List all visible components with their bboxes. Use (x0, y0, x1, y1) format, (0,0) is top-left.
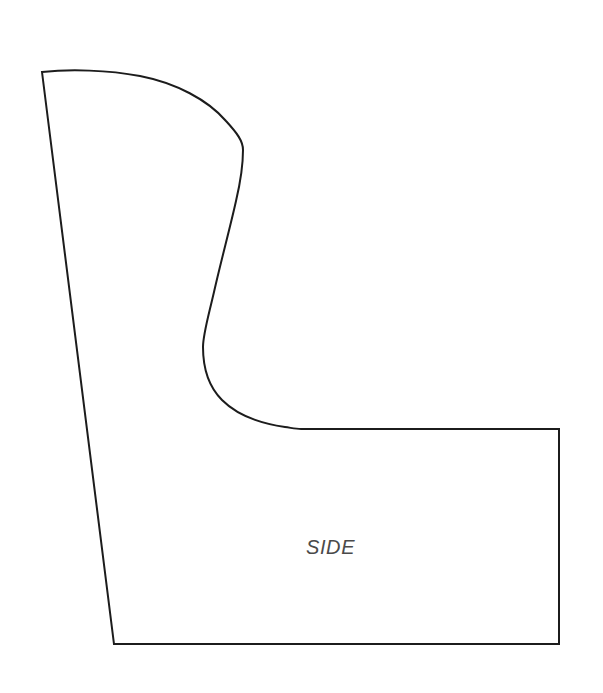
side-panel-label: SIDE (306, 536, 355, 559)
pattern-sheet: SIDE (0, 0, 603, 693)
side-panel-drawing (0, 0, 603, 693)
side-panel-outline-path (42, 70, 559, 644)
